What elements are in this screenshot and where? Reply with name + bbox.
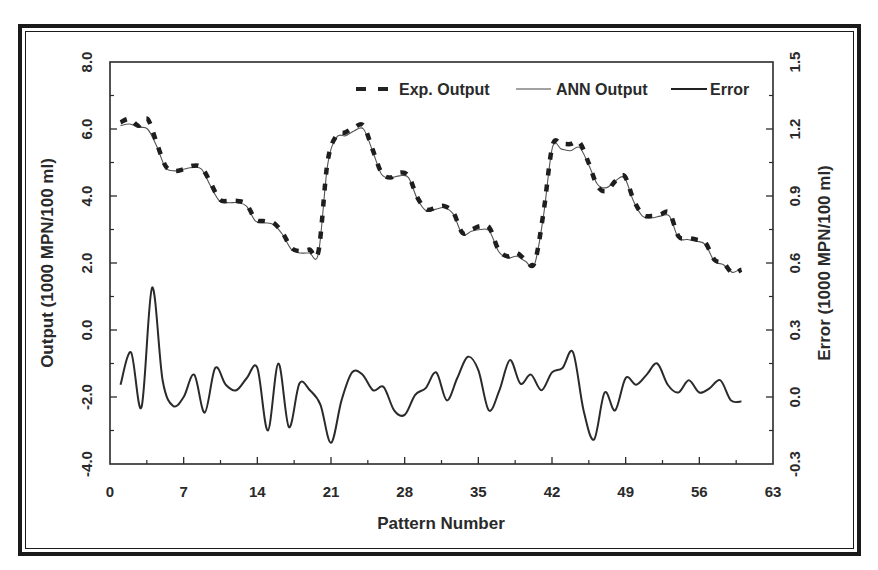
legend-label-error: Error xyxy=(710,81,749,98)
legend-label-exp: Exp. Output xyxy=(399,81,490,98)
y-tick-label: -2.0 xyxy=(78,384,95,410)
x-tick-label: 49 xyxy=(617,483,634,500)
x-tick-label: 28 xyxy=(396,483,413,500)
series-ann-output xyxy=(121,124,742,272)
y2-tick-label: 0.6 xyxy=(786,253,803,274)
series-layer xyxy=(121,118,742,442)
y2-tick-label: 0.0 xyxy=(786,387,803,408)
y-tick-label: 2.0 xyxy=(78,253,95,274)
x-tick-label: 0 xyxy=(106,483,114,500)
series-error xyxy=(121,287,742,442)
x-tick-label: 21 xyxy=(323,483,340,500)
x-tick-label: 14 xyxy=(249,483,266,500)
y2-tick-label: 0.9 xyxy=(786,186,803,207)
y2-tick-label: -0.3 xyxy=(786,451,803,477)
y-tick-label: 0.0 xyxy=(78,320,95,341)
y-tick-label: 4.0 xyxy=(78,186,95,207)
plot-area xyxy=(110,62,773,464)
y2-tick-label: 1.2 xyxy=(786,119,803,140)
y-axis-left: -4.0-2.00.02.04.06.08.0 xyxy=(78,52,117,477)
x-tick-label: 56 xyxy=(691,483,708,500)
series-exp-output xyxy=(121,118,742,273)
x-tick-label: 63 xyxy=(765,483,782,500)
x-tick-label: 35 xyxy=(470,483,487,500)
y2-axis-title: Error (1000 MPN/100 ml) xyxy=(815,165,834,361)
y2-tick-label: 0.3 xyxy=(786,320,803,341)
y2-tick-label: 1.5 xyxy=(786,52,803,73)
y-tick-label: 6.0 xyxy=(78,119,95,140)
chart: 071421283542495663 -4.0-2.00.02.04.06.08… xyxy=(0,0,878,570)
y-tick-label: -4.0 xyxy=(78,451,95,477)
legend: Exp. Output ANN Output Error xyxy=(356,81,749,98)
y-axis-right: -0.30.00.30.60.91.21.5 xyxy=(766,52,803,477)
x-axis-title: Pattern Number xyxy=(377,514,505,533)
x-tick-label: 42 xyxy=(544,483,561,500)
y-axis-title: Output (1000 MPN/100 ml) xyxy=(38,158,57,368)
x-tick-label: 7 xyxy=(179,483,187,500)
y-tick-label: 8.0 xyxy=(78,52,95,73)
legend-label-ann: ANN Output xyxy=(556,81,648,98)
